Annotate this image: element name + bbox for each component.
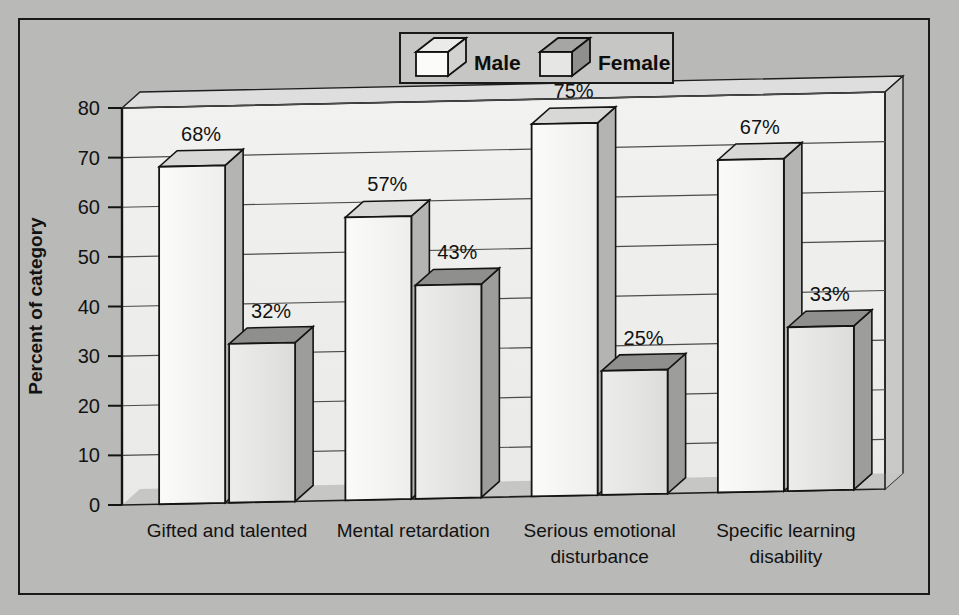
bar-female-0[interactable]	[229, 327, 313, 503]
bar-value-label: 33%	[810, 283, 850, 305]
bar-female-3[interactable]	[788, 310, 872, 491]
category-label: disturbance	[551, 546, 649, 567]
chart-screenshot: 01020304050607080 Percent of category 68…	[0, 0, 959, 615]
bar-front-face	[159, 165, 225, 504]
y-tick-label: 80	[78, 97, 100, 119]
bar-front-face	[788, 326, 854, 491]
y-tick-label: 10	[78, 444, 100, 466]
y-axis-ticks: 01020304050607080	[78, 97, 122, 516]
bar-side-face	[295, 327, 313, 502]
cube-icon	[416, 52, 448, 76]
bar-value-label: 25%	[624, 327, 664, 349]
bar-side-face	[668, 353, 686, 493]
bar-front-face	[415, 284, 481, 499]
category-label: disability	[749, 546, 822, 567]
bar-front-face	[718, 159, 784, 493]
y-axis: 01020304050607080	[78, 97, 122, 516]
bar-value-label: 43%	[437, 241, 477, 263]
plot-right-wall	[885, 76, 903, 489]
category-labels: Gifted and talentedMental retardationSer…	[147, 520, 856, 567]
legend-label-female: Female	[598, 51, 670, 74]
bar-female-2[interactable]	[602, 353, 686, 494]
bar-side-face	[854, 310, 872, 490]
y-tick-label: 60	[78, 196, 100, 218]
category-label: Serious emotional	[524, 520, 676, 541]
y-tick-label: 50	[78, 246, 100, 268]
y-axis-title: Percent of category	[25, 217, 46, 395]
y-tick-label: 20	[78, 395, 100, 417]
y-tick-label: 0	[89, 494, 100, 516]
grouped-bar-chart: 01020304050607080 Percent of category 68…	[0, 0, 959, 615]
y-tick-label: 30	[78, 345, 100, 367]
bar-side-face	[481, 268, 499, 497]
bar-value-label: 67%	[740, 116, 780, 138]
bar-front-face	[602, 369, 668, 494]
category-label: Specific learning	[716, 520, 855, 541]
bar-front-face	[345, 216, 411, 500]
legend: Male Female	[400, 33, 673, 83]
cube-icon	[540, 52, 572, 76]
bar-value-label: 57%	[367, 173, 407, 195]
bar-value-label: 32%	[251, 300, 291, 322]
y-tick-label: 70	[78, 147, 100, 169]
category-label: Mental retardation	[337, 520, 490, 541]
bar-front-face	[229, 343, 295, 503]
y-tick-label: 40	[78, 296, 100, 318]
category-label: Gifted and talented	[147, 520, 308, 541]
bar-female-1[interactable]	[415, 268, 499, 499]
bar-value-label: 68%	[181, 123, 221, 145]
legend-label-male: Male	[474, 51, 521, 74]
bar-front-face	[532, 123, 598, 497]
